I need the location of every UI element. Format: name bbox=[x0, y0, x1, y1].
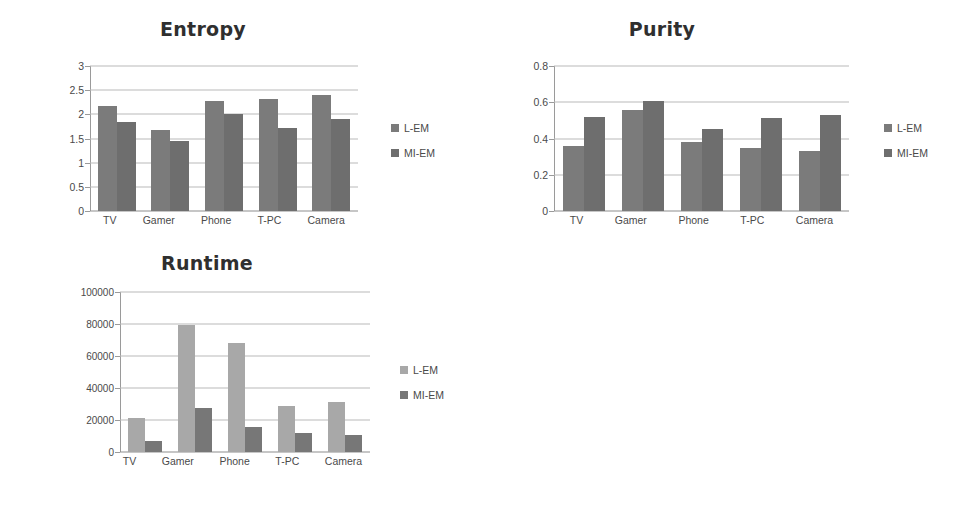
x-axis-tick-label: T-PC bbox=[275, 455, 299, 467]
bar-mi-em-t-pc bbox=[295, 433, 312, 452]
legend-swatch-icon bbox=[884, 124, 892, 132]
x-axis-tick-label: TV bbox=[103, 214, 116, 226]
legend-item-mi-em[interactable]: MI-EM bbox=[391, 147, 435, 159]
y-axis-tick-label: 0.6 bbox=[533, 96, 554, 108]
entropy-legend: L-EMMI-EM bbox=[391, 122, 435, 159]
x-axis-tick-label: Phone bbox=[219, 455, 249, 467]
bar-mi-em-phone bbox=[702, 129, 723, 211]
y-axis-tick-label: 0.5 bbox=[69, 181, 90, 193]
x-axis-tick-label: Camera bbox=[796, 214, 833, 226]
purity-chart-title: Purity bbox=[512, 18, 812, 40]
bar-group bbox=[228, 292, 262, 452]
bar-mi-em-gamer bbox=[170, 141, 189, 211]
bar-l-em-gamer bbox=[178, 325, 195, 452]
x-axis-tick-label: T-PC bbox=[740, 214, 764, 226]
x-axis-tick-label: Gamer bbox=[143, 214, 175, 226]
y-axis-tick-label: 2 bbox=[78, 108, 90, 120]
y-axis-tick-label: 2.5 bbox=[69, 84, 90, 96]
x-axis-tick-label: Camera bbox=[325, 455, 362, 467]
legend-label: MI-EM bbox=[404, 147, 435, 159]
y-tick-mark bbox=[549, 211, 554, 212]
runtime-legend: L-EMMI-EM bbox=[400, 364, 444, 401]
legend-swatch-icon bbox=[400, 366, 408, 374]
x-axis-tick-label: Camera bbox=[308, 214, 345, 226]
y-tick-mark bbox=[85, 211, 90, 212]
bar-group bbox=[312, 66, 350, 211]
bar-mi-em-t-pc bbox=[761, 118, 782, 211]
y-axis-tick-label: 0.8 bbox=[533, 60, 554, 72]
legend-swatch-icon bbox=[391, 149, 399, 157]
x-axis-tick-label: Phone bbox=[201, 214, 231, 226]
bar-l-em-camera bbox=[328, 402, 345, 452]
y-axis-tick-label: 0 bbox=[78, 205, 90, 217]
bar-mi-em-t-pc bbox=[278, 128, 297, 211]
bar-group bbox=[259, 66, 297, 211]
legend-swatch-icon bbox=[400, 391, 408, 399]
bar-l-em-camera bbox=[312, 95, 331, 211]
purity-legend: L-EMMI-EM bbox=[884, 122, 928, 159]
bar-mi-em-gamer bbox=[643, 101, 664, 211]
bar-group bbox=[563, 66, 605, 211]
y-axis-tick-label: 0.2 bbox=[533, 169, 554, 181]
bar-group bbox=[278, 292, 312, 452]
bar-l-em-tv bbox=[563, 146, 584, 211]
purity-bars bbox=[554, 66, 849, 211]
legend-swatch-icon bbox=[884, 149, 892, 157]
purity-plot-area: 00.20.40.60.8 bbox=[554, 66, 849, 211]
y-axis-tick-label: 20000 bbox=[86, 415, 120, 426]
x-axis-tick-label: Gamer bbox=[615, 214, 647, 226]
bar-group bbox=[681, 66, 723, 211]
bar-l-em-phone bbox=[681, 142, 702, 211]
bar-l-em-camera bbox=[799, 151, 820, 211]
x-axis-tick-label: T-PC bbox=[257, 214, 281, 226]
bar-group bbox=[622, 66, 664, 211]
bar-l-em-t-pc bbox=[259, 99, 278, 211]
runtime-bars bbox=[120, 292, 370, 452]
bar-group bbox=[740, 66, 782, 211]
bar-group bbox=[128, 292, 162, 452]
runtime-plot-area: 020000400006000080000100000 bbox=[120, 292, 370, 452]
legend-item-l-em[interactable]: L-EM bbox=[884, 122, 928, 134]
bar-group bbox=[328, 292, 362, 452]
legend-item-l-em[interactable]: L-EM bbox=[391, 122, 435, 134]
purity-chart: Purity 00.20.40.60.8 TVGamerPhoneT-PCCam… bbox=[498, 18, 938, 248]
legend-label: L-EM bbox=[413, 364, 438, 376]
y-axis-tick-label: 40000 bbox=[86, 383, 120, 394]
bar-group bbox=[205, 66, 243, 211]
bar-l-em-t-pc bbox=[278, 406, 295, 452]
y-axis-tick-label: 1 bbox=[78, 157, 90, 169]
bar-l-em-tv bbox=[128, 418, 145, 452]
legend-item-mi-em[interactable]: MI-EM bbox=[884, 147, 928, 159]
y-axis-tick-label: 80000 bbox=[86, 319, 120, 330]
legend-item-l-em[interactable]: L-EM bbox=[400, 364, 444, 376]
x-axis-tick-label: Phone bbox=[678, 214, 708, 226]
purity-x-axis-labels: TVGamerPhoneT-PCCamera bbox=[554, 214, 849, 226]
runtime-chart: Runtime 020000400006000080000100000 TVGa… bbox=[48, 252, 488, 492]
bar-l-em-gamer bbox=[151, 130, 170, 211]
bar-l-em-t-pc bbox=[740, 148, 761, 211]
bar-mi-em-camera bbox=[345, 435, 362, 452]
legend-label: L-EM bbox=[404, 122, 429, 134]
legend-label: MI-EM bbox=[413, 389, 444, 401]
bar-mi-em-camera bbox=[820, 115, 841, 211]
legend-item-mi-em[interactable]: MI-EM bbox=[400, 389, 444, 401]
legend-label: MI-EM bbox=[897, 147, 928, 159]
y-axis-tick-label: 60000 bbox=[86, 351, 120, 362]
entropy-bars bbox=[90, 66, 358, 211]
y-axis-tick-label: 3 bbox=[78, 60, 90, 72]
bar-mi-em-phone bbox=[224, 114, 243, 211]
bar-l-em-tv bbox=[98, 106, 117, 211]
bar-mi-em-tv bbox=[117, 122, 136, 211]
bar-l-em-phone bbox=[228, 343, 245, 452]
x-axis-tick-label: TV bbox=[123, 455, 136, 467]
entropy-chart-title: Entropy bbox=[58, 18, 348, 40]
y-axis-tick-label: 0 bbox=[542, 205, 554, 217]
runtime-x-axis-labels: TVGamerPhoneT-PCCamera bbox=[110, 455, 375, 467]
bar-l-em-phone bbox=[205, 101, 224, 211]
bar-group bbox=[178, 292, 212, 452]
entropy-chart: Entropy 00.511.522.53 TVGamerPhoneT-PCCa… bbox=[48, 18, 478, 248]
x-axis-tick-label: Gamer bbox=[162, 455, 194, 467]
entropy-x-axis-labels: TVGamerPhoneT-PCCamera bbox=[90, 214, 358, 226]
y-axis-tick-label: 1.5 bbox=[69, 133, 90, 145]
bar-mi-em-gamer bbox=[195, 408, 212, 452]
